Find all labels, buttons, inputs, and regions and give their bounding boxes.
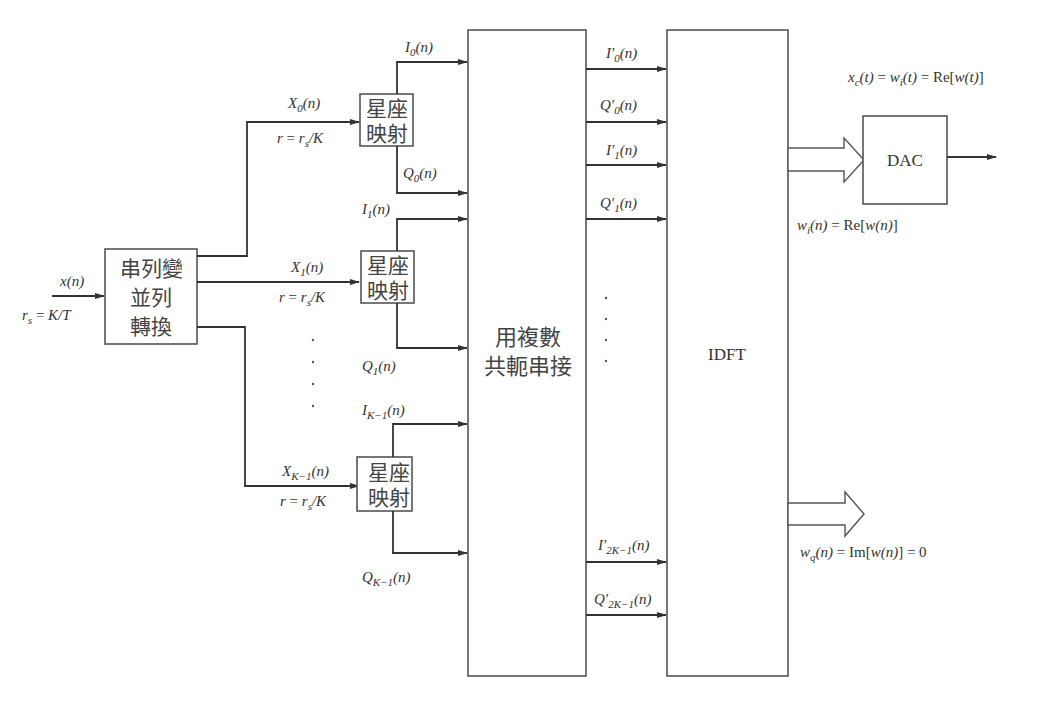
mapper-k1-line-1: 星座 <box>368 461 410 485</box>
imag-output-label: wq(n) = Im[w(n)] = 0 <box>800 544 927 563</box>
conj-out-q0-label: Q′0(n) <box>600 97 637 116</box>
idft-block: IDFT <box>667 30 788 676</box>
conj-out-q2k1-label: Q′2K−1(n) <box>594 591 651 610</box>
ofdm-transmitter-diagram: x(n) rs = K/T 串列變 並列 轉換 X0(n) r = rs/K X… <box>0 0 1038 702</box>
mapper-1-line-1: 星座 <box>367 254 409 278</box>
serial-to-parallel-block: 串列變 並列 轉換 <box>105 249 197 344</box>
mapper-k1-i-label: IK−1(n) <box>361 402 405 421</box>
s2p-line-3: 轉換 <box>130 315 172 339</box>
mapper-k1-i-wire <box>393 424 467 457</box>
mapper-0-i-label: I0(n) <box>404 39 433 58</box>
branch-ellipsis <box>312 339 314 407</box>
branch-k1-input-label: XK−1(n) <box>281 463 329 482</box>
real-output-fat-arrow-icon <box>788 138 864 182</box>
conjugate-concatenation-block: 用複數 共軛串接 <box>468 30 586 676</box>
mapper-0-line-1: 星座 <box>366 97 408 121</box>
mapper-0-q-label: Q0(n) <box>403 165 437 184</box>
input-signal-label: x(n) <box>59 273 84 290</box>
idft-label: IDFT <box>708 345 746 364</box>
conj-out-i0-label: I′0(n) <box>605 45 637 64</box>
mapper-0-i-wire <box>397 62 467 94</box>
dac-label: DAC <box>887 151 923 170</box>
imag-output-fat-arrow-icon <box>788 492 864 536</box>
conj-out-ellipsis <box>605 297 607 362</box>
constellation-mapper-1: 星座 映射 <box>361 251 414 303</box>
branch-1-input-label: X1(n) <box>290 259 323 278</box>
mapper-k1-line-2: 映射 <box>368 486 410 510</box>
mapper-1-q-wire <box>397 303 467 348</box>
mapper-1-line-2: 映射 <box>367 279 409 303</box>
branch-0-input-label: X0(n) <box>287 95 320 114</box>
branch-k1-rate-label: r = rs/K <box>280 493 327 512</box>
s2p-line-1: 串列變 <box>120 257 183 281</box>
constellation-mapper-k1: 星座 映射 <box>357 457 412 511</box>
branch-0-rate-label: r = rs/K <box>277 130 324 149</box>
constellation-mapper-0: 星座 映射 <box>360 94 413 146</box>
input-signal: x(n) rs = K/T <box>22 273 104 326</box>
conjugate-line-1: 用複數 <box>495 325 561 350</box>
conj-out-i1-label: I′1(n) <box>605 142 637 161</box>
s2p-line-2: 並列 <box>130 286 172 310</box>
mapper-1-i-label: I1(n) <box>361 201 390 220</box>
real-output-label: wi(n) = Re[w(n)] <box>797 217 898 236</box>
mapper-0-line-2: 映射 <box>366 122 408 146</box>
dac-output-label: xc(t) = wi(t) = Re[w(t)] <box>847 69 984 88</box>
mapper-k1-q-label: QK−1(n) <box>362 569 411 588</box>
mapper-k1-q-wire <box>393 511 467 553</box>
branch-1-rate-label: r = rs/K <box>279 289 326 308</box>
mapper-1-q-label: Q1(n) <box>362 358 396 377</box>
branch-k1-wire <box>197 327 359 486</box>
conj-out-q1-label: Q′1(n) <box>600 195 637 214</box>
dac-block: DAC <box>863 116 947 204</box>
conjugate-line-2: 共軛串接 <box>484 354 572 379</box>
input-rate-label: rs = K/T <box>22 307 72 326</box>
conj-out-i2k1-label: I′2K−1(n) <box>597 537 650 556</box>
mapper-1-i-wire <box>397 219 467 251</box>
